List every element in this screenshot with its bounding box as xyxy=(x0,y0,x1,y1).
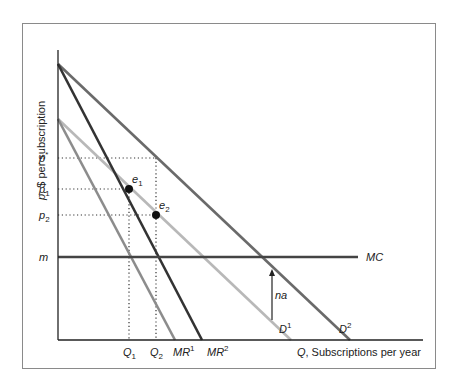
x-tick-label-0: Q1 xyxy=(123,346,137,361)
na-label-main: na xyxy=(275,289,287,301)
point-label-e1-sub: 1 xyxy=(138,179,143,188)
curve-mr2 xyxy=(58,64,202,340)
y-tick-label-1-sub: 1 xyxy=(45,189,50,198)
y-tick-label-0-sup: * xyxy=(45,150,48,159)
y-tick-label-0-main: p xyxy=(38,152,45,164)
curve-label-mr1-sup: 1 xyxy=(190,344,195,353)
curve-label-mr1: MR1 xyxy=(173,344,195,358)
y-tick-label-3: m xyxy=(39,251,48,263)
y-axis-title-text: , $ per subscription xyxy=(35,101,47,194)
y-tick-label-2: p2 xyxy=(38,209,50,224)
point-e1 xyxy=(125,185,133,193)
y-tick-label-1-main: p xyxy=(38,183,45,195)
curve-label-mc-main: MC xyxy=(366,251,383,263)
curve-label-d1-sup: 1 xyxy=(287,321,292,330)
curve-label-mc: MC xyxy=(366,251,383,263)
x-tick-label-0-sub: 1 xyxy=(132,352,137,361)
curve-label-mr2-sup: 2 xyxy=(224,344,229,353)
curve-d1 xyxy=(58,119,291,340)
demand-shift-diagram: p, $ per subscriptionQ, Subscriptions pe… xyxy=(0,0,460,392)
point-label-e1: e1 xyxy=(132,173,143,188)
curve-label-d2: D2 xyxy=(339,321,352,335)
curve-mr1 xyxy=(58,119,175,340)
curve-label-mr1-main: MR xyxy=(173,346,190,358)
curve-label-d2-sup: 2 xyxy=(347,321,352,330)
x-axis-title-text: , Subscriptions per year xyxy=(305,346,421,358)
curve-label-mr2-main: MR xyxy=(207,346,224,358)
na-arrow-head-icon xyxy=(269,269,275,276)
y-tick-label-3-main: m xyxy=(39,251,48,263)
x-tick-label-1-sub: 2 xyxy=(159,352,164,361)
point-label-e2: e2 xyxy=(159,199,170,214)
x-tick-label-1: Q2 xyxy=(150,346,164,361)
y-tick-label-2-sub: 2 xyxy=(45,215,50,224)
point-label-e2-sub: 2 xyxy=(165,205,170,214)
curve-label-d1: D1 xyxy=(279,321,292,335)
curve-label-mr2: MR2 xyxy=(207,344,229,358)
curve-label-d2-main: D xyxy=(339,323,347,335)
point-e2 xyxy=(152,211,160,219)
curve-label-d1-main: D xyxy=(279,323,287,335)
na-label: na xyxy=(275,289,287,301)
y-tick-label-2-main: p xyxy=(38,209,45,221)
x-axis-title: Q, Subscriptions per year xyxy=(297,346,421,358)
